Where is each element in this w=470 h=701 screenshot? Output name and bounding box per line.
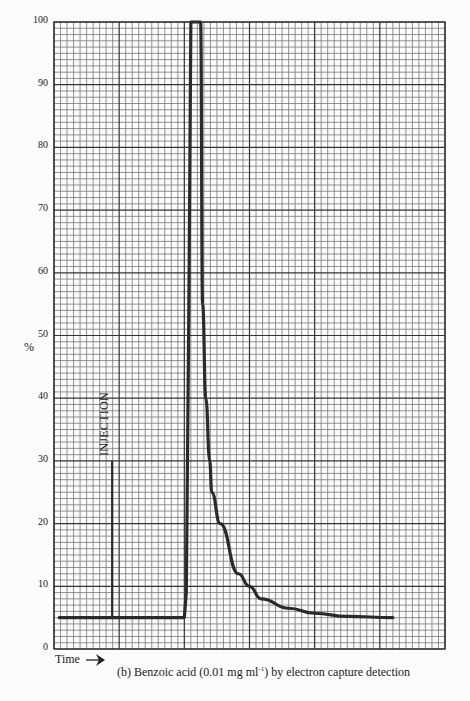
x-axis-label: Time [55,652,80,667]
injection-label: INJECTION [97,392,112,456]
y-tick-label: 10 [18,578,48,589]
y-tick-label: 40 [18,390,48,401]
time-arrow-icon [86,654,105,666]
y-tick-label: 50 [18,328,48,339]
y-tick-label: 20 [18,516,48,527]
y-tick-label: 60 [18,265,48,276]
y-tick-label: 80 [18,139,48,150]
chromatogram-chart [0,0,470,701]
y-tick-label: 100 [18,14,48,25]
y-tick-label: 0 [18,641,48,652]
y-axis-label: % [24,340,34,355]
detector-trace [59,22,393,618]
caption-suffix: ) by electron capture detection [264,665,410,679]
y-tick-label: 90 [18,77,48,88]
y-tick-label: 70 [18,202,48,213]
y-tick-label: 30 [18,453,48,464]
figure-caption: (b) Benzoic acid (0.01 mg ml-1) by elect… [117,665,410,680]
caption-prefix: (b) Benzoic acid (0.01 mg ml [117,665,258,679]
